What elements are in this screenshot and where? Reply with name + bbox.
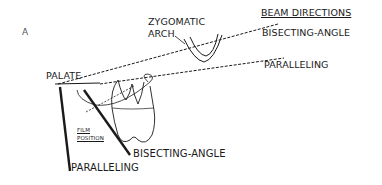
zygomatic-label-line1: ZYGOMATIC — [148, 16, 205, 28]
panel-label: A — [22, 27, 28, 37]
beam-bisecting-angle-label: BISECTING-ANGLE — [262, 27, 350, 38]
palate-line — [55, 83, 100, 84]
film-position-line1: FILM — [77, 126, 104, 134]
film-bisecting-angle-label: BISECTING-ANGLE — [133, 148, 226, 159]
maxilla-contour — [77, 74, 153, 105]
film-paralleling-label: PARALLELING — [71, 162, 139, 173]
beam-paralleling-label: PARALLELING — [264, 59, 329, 70]
film-position-label: FILM POSITION — [77, 126, 104, 142]
paralleling-beam-line — [100, 58, 284, 84]
paralleling-film-line — [60, 87, 70, 171]
film-position-line2: POSITION — [77, 134, 104, 142]
tooth-cej-line — [112, 108, 154, 109]
zygomatic-arch-label: ZYGOMATIC ARCH — [148, 16, 205, 40]
zygomatic-label-line2: ARCH — [148, 28, 205, 40]
palate-label: PALATE — [46, 70, 81, 81]
beam-directions-title: BEAM DIRECTIONS — [261, 7, 351, 18]
dental-radiography-diagram: A ZYGOMATIC ARCH BEAM DIRECTIONS BISECTI… — [0, 0, 382, 185]
